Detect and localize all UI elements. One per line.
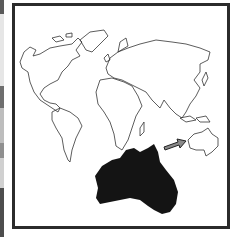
australia-small-outline	[188, 128, 218, 156]
pointer-arrow-icon	[164, 139, 186, 150]
world-map	[0, 0, 240, 237]
north-america-outline	[20, 38, 82, 112]
eurasia-outline	[106, 40, 210, 118]
greenland-outline	[80, 30, 108, 52]
japan-outline	[202, 72, 208, 86]
uk-outline	[104, 54, 110, 62]
south-america-outline	[52, 108, 82, 162]
madagascar-outline	[140, 122, 144, 136]
arctic-islands-outline	[52, 33, 72, 42]
australia-highlight-silhouette	[95, 144, 178, 214]
africa-outline	[96, 78, 142, 150]
indonesia-outline	[180, 116, 210, 122]
